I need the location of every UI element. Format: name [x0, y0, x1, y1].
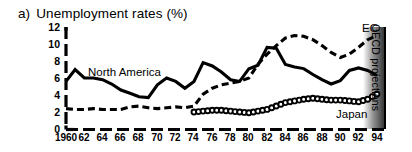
ytick-label: 2 — [42, 107, 60, 117]
series-label-japan: Japan — [336, 108, 367, 120]
ytick-label: 8 — [42, 56, 60, 66]
ytick-label: 10 — [42, 39, 60, 49]
projection-band-label: OECD projections — [370, 24, 382, 128]
chart-figure: a)Unemployment rates (%) — [0, 0, 412, 152]
ytick-label: 6 — [42, 73, 60, 83]
series-label-north-america: North America — [88, 66, 161, 78]
xtick-label: 94 — [366, 133, 388, 143]
ytick-label: 12 — [42, 22, 60, 32]
plot-area — [0, 0, 412, 152]
ytick-label: 4 — [42, 90, 60, 100]
